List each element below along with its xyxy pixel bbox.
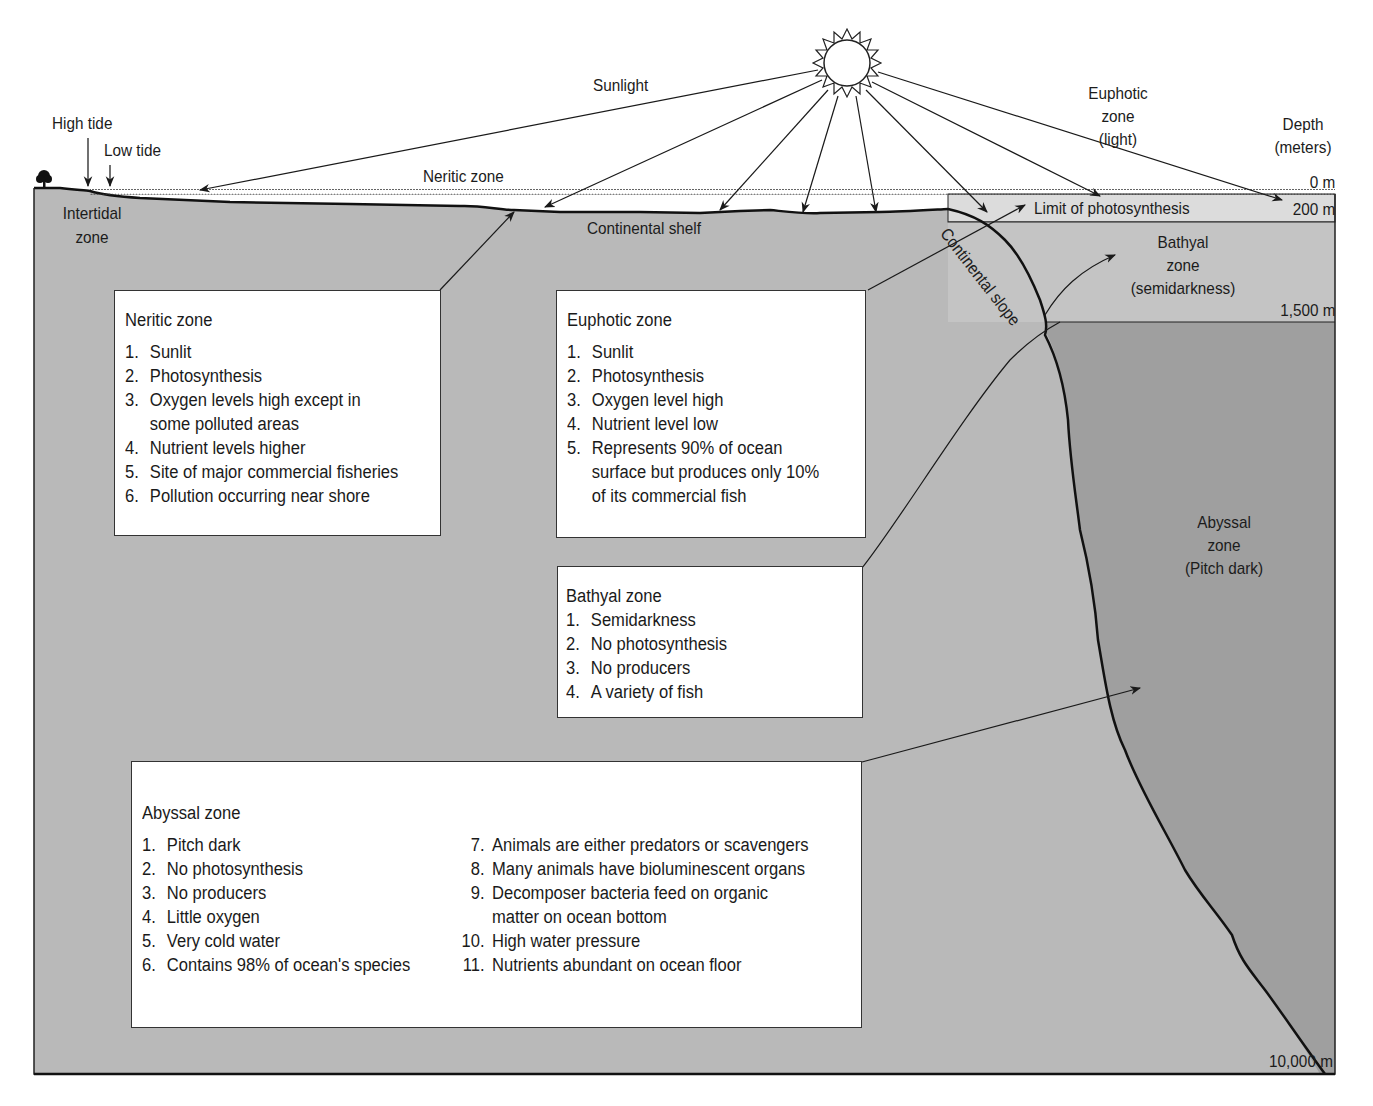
depth-200m: 200 m [1292,199,1335,221]
euphotic-zone-label-1: Euphotic [1073,83,1163,105]
abyssal-label-3: (Pitch dark) [1161,558,1287,580]
list-item: 5.Represents 90% of ocean [567,436,832,460]
list-item: 2.No photosynthesis [566,632,829,656]
list-item: surface but produces only 10% [567,460,832,484]
euphotic-zone-label-3: (light) [1073,129,1163,151]
abyssal-list-right: 7.Animals are either predators or scaven… [457,833,839,977]
list-item: 3.No producers [142,881,432,905]
list-item: 1.Sunlit [567,340,832,364]
bathyal-label-2: zone [1120,255,1246,277]
list-item: 6.Pollution occurring near shore [125,484,406,508]
list-item: 2.Photosynthesis [567,364,832,388]
depth-10000m: 10,000 m [1269,1051,1333,1073]
list-item: matter on ocean bottom [457,905,809,929]
high-tide-label: High tide [52,113,112,135]
abyssal-box-title: Abyssal zone [142,801,794,825]
euphotic-zone-label-2: zone [1073,106,1163,128]
neritic-zone-label: Neritic zone [423,166,504,188]
list-item: some polluted areas [125,412,406,436]
list-item: 6.Contains 98% of ocean's species [142,953,432,977]
tree-icon [36,170,52,188]
intertidal-label-2: zone [43,227,142,249]
list-item: 4.A variety of fish [566,680,829,704]
list-item: 1.Sunlit [125,340,406,364]
list-item: 9.Decomposer bacteria feed on organic [457,881,809,905]
depth-1500m: 1,500 m [1280,300,1335,322]
sea-surface [90,189,1335,195]
list-item: 8.Many animals have bioluminescent organ… [457,857,809,881]
list-item: 4.Little oxygen [142,905,432,929]
bathyal-zone-box: Bathyal zone 1.Semidarkness 2.No photosy… [557,566,863,718]
abyssal-list-left: 1.Pitch dark 2.No photosynthesis 3.No pr… [142,833,457,977]
list-item: 5.Very cold water [142,929,432,953]
neritic-zone-box: Neritic zone 1.Sunlit 2.Photosynthesis 3… [114,290,441,536]
limit-photosynthesis-label: Limit of photosynthesis [1034,198,1190,220]
list-item: 5.Site of major commercial fisheries [125,460,406,484]
list-item: 1.Semidarkness [566,608,829,632]
euphotic-zone-box: Euphotic zone 1.Sunlit 2.Photosynthesis … [556,290,866,538]
depth-label-2: (meters) [1258,137,1348,159]
depth-label-1: Depth [1258,114,1348,136]
list-item: of its commercial fish [567,484,832,508]
list-item: 10.High water pressure [457,929,809,953]
sun-icon [813,29,881,97]
list-item: 1.Pitch dark [142,833,432,857]
list-item: 2.Photosynthesis [125,364,406,388]
bathyal-label-3: (semidarkness) [1120,278,1246,300]
list-item: 4.Nutrient level low [567,412,832,436]
list-item: 3.Oxygen levels high except in [125,388,406,412]
sunlight-label: Sunlight [593,75,648,97]
abyssal-zone-box: Abyssal zone 1.Pitch dark 2.No photosynt… [131,761,862,1028]
abyssal-label-2: zone [1161,535,1287,557]
bathyal-list: 1.Semidarkness 2.No photosynthesis 3.No … [566,608,852,704]
bathyal-box-title: Bathyal zone [566,584,829,608]
bathyal-label-1: Bathyal [1120,232,1246,254]
list-item: 2.No photosynthesis [142,857,432,881]
neritic-box-title: Neritic zone [125,308,406,332]
depth-0m: 0 m [1309,172,1335,194]
list-item: 7.Animals are either predators or scaven… [457,833,809,857]
low-tide-label: Low tide [104,140,161,162]
euphotic-box-title: Euphotic zone [567,308,832,332]
list-item: 3.Oxygen level high [567,388,832,412]
list-item: 3.No producers [566,656,829,680]
abyssal-label-1: Abyssal [1161,512,1287,534]
list-item: 4.Nutrient levels higher [125,436,406,460]
neritic-list: 1.Sunlit 2.Photosynthesis 3.Oxygen level… [125,340,430,508]
euphotic-list: 1.Sunlit 2.Photosynthesis 3.Oxygen level… [567,340,855,508]
continental-shelf-label: Continental shelf [587,218,701,240]
list-item: 11.Nutrients abundant on ocean floor [457,953,809,977]
intertidal-label-1: Intertidal [43,203,142,225]
